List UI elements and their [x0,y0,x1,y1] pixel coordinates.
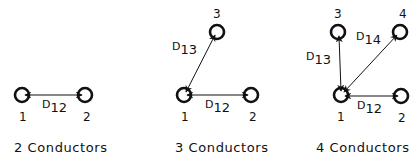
panel-2-conductors: D12 1 2 2 Conductors [14,88,108,155]
panel-caption: 3 Conductors [175,140,269,155]
conductor-2-label: 2 [83,110,91,124]
panel-caption: 4 Conductors [316,140,410,155]
conductor-3-label: 3 [334,7,342,21]
distance-d12-label: D12 [357,99,382,116]
distance-d13-label: D13 [172,40,197,57]
distance-d13-arrow [339,36,341,91]
conductor-2-label: 2 [398,111,406,125]
conductor-3-icon [210,25,224,39]
conductor-1-label: 1 [19,110,27,124]
panel-4-conductors: D13 D14 D12 3 4 1 2 4 Conductors [306,7,410,155]
conductor-3-icon [331,25,345,39]
conductor-2-label: 2 [249,110,257,124]
distance-d14-label: D14 [356,30,381,47]
distance-d12-label: D12 [205,98,230,115]
panel-3-conductors: D13 D12 3 1 2 3 Conductors [172,7,269,155]
conductor-spacing-diagram: D12 1 2 2 Conductors D13 D12 3 1 2 3 Con… [0,0,419,164]
conductor-3-label: 3 [213,7,221,21]
panel-caption: 2 Conductors [14,140,108,155]
conductor-1-label: 1 [181,110,189,124]
distance-d13-label: D13 [306,50,331,67]
distance-d12-label: D12 [42,98,67,115]
conductor-4-label: 4 [399,7,407,21]
conductor-1-label: 1 [337,110,345,124]
